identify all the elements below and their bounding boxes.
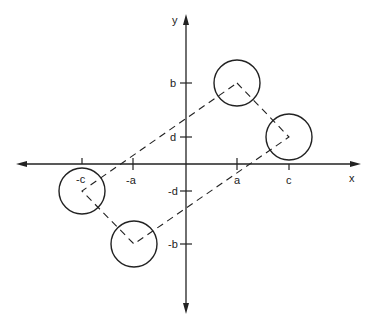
- tick-label-d: d: [170, 131, 176, 143]
- tick-label-neg-d: -d: [168, 185, 178, 197]
- y-axis-up-arrow-icon: [183, 14, 189, 25]
- y-axis-down-arrow-icon: [183, 303, 189, 314]
- tick-label-b: b: [170, 77, 176, 89]
- x-axis-left-arrow-icon: [16, 161, 27, 167]
- tick-label-neg-a: -a: [126, 174, 137, 186]
- circle-neg-a-neg-b: [111, 221, 157, 267]
- y-axis-label: y: [172, 14, 178, 26]
- tick-label-neg-c: -c: [76, 173, 86, 185]
- tick-label-c: c: [286, 174, 292, 186]
- tick-label-neg-b: -b: [168, 238, 178, 250]
- x-axis-label: x: [349, 172, 355, 184]
- tick-label-a: a: [234, 174, 241, 186]
- x-axis-right-arrow-icon: [350, 161, 361, 167]
- coordinate-diagram: y x -c -a a c b d -d -b: [0, 0, 370, 327]
